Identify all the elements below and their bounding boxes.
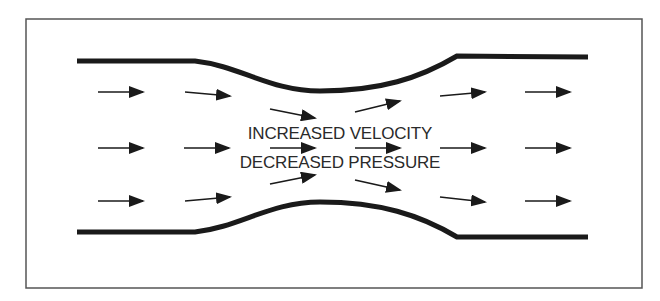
flow-arrow-icon xyxy=(440,197,485,202)
flow-arrow-icon xyxy=(355,101,400,112)
pipe-wall-bottom xyxy=(77,202,588,237)
label-increased-velocity: INCREASED VELOCITY xyxy=(248,124,432,143)
flow-arrow-icon xyxy=(270,109,315,118)
flow-arrows-lower-row xyxy=(98,175,570,202)
flow-arrow-icon xyxy=(440,92,485,96)
pipe-wall-top xyxy=(77,56,588,91)
flow-arrow-icon xyxy=(185,92,230,96)
label-decreased-pressure: DECREASED PRESSURE xyxy=(240,153,440,172)
flow-arrows-upper-row xyxy=(98,92,570,118)
venturi-diagram: INCREASED VELOCITY DECREASED PRESSURE xyxy=(0,0,660,301)
flow-arrow-icon xyxy=(270,175,315,184)
flow-arrow-icon xyxy=(185,197,230,201)
flow-arrow-icon xyxy=(355,180,400,190)
